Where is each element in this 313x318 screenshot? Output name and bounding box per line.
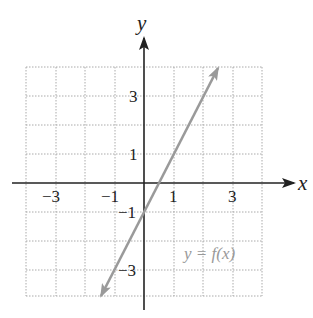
y-axis-label: y: [135, 11, 147, 35]
y-tick-label: 3: [129, 87, 138, 106]
x-tick-label: 3: [228, 187, 237, 206]
y-tick-label: 1: [129, 145, 138, 164]
y-tick-label: −3: [118, 261, 136, 280]
coordinate-plane: y x −3 −1 1 3 3 1 −1 −3 y = f(x): [0, 0, 313, 318]
function-label: y = f(x): [182, 244, 235, 263]
y-tick-label: −1: [118, 203, 136, 222]
x-tick-label: 1: [169, 187, 178, 206]
x-axis-label: x: [297, 171, 308, 195]
x-tick-label: −1: [101, 187, 119, 206]
x-tick-label: −3: [42, 187, 60, 206]
